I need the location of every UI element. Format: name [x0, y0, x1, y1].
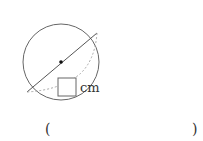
unit-label: cm — [80, 80, 100, 95]
center-dot — [59, 60, 63, 64]
answer-box[interactable] — [58, 78, 76, 96]
close-paren: ) — [192, 122, 197, 136]
circle-diagram: cm — [0, 0, 203, 141]
open-paren: ( — [45, 122, 50, 136]
